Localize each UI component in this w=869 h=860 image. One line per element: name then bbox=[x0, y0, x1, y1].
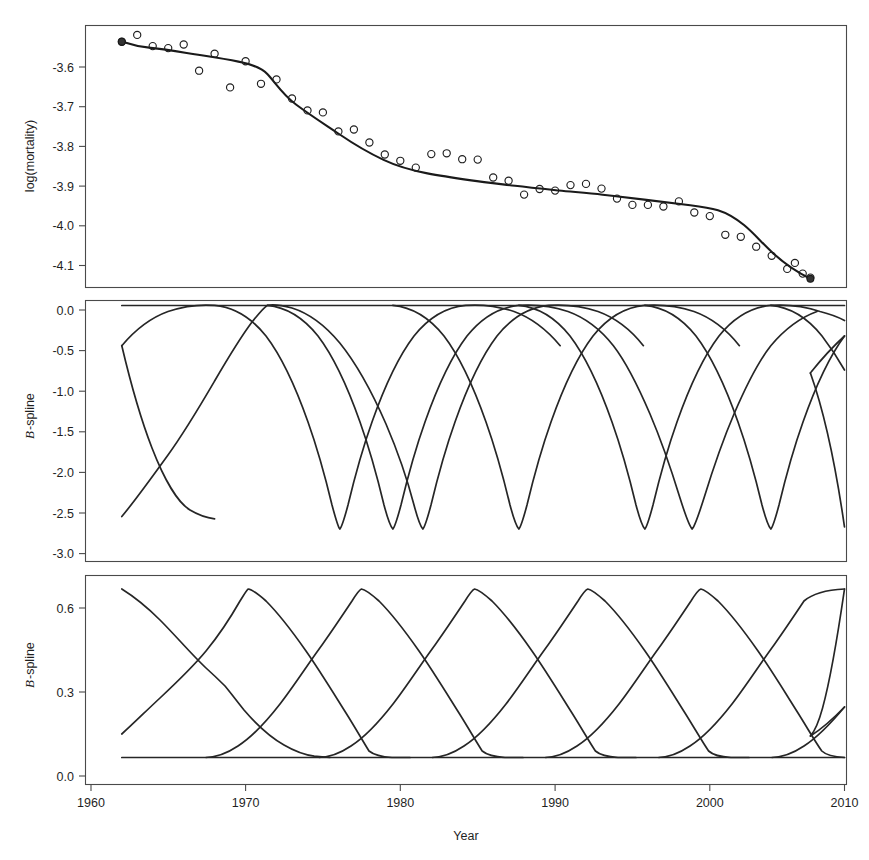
panel-log-bspline-y-axis-label: B -spline bbox=[22, 393, 37, 439]
xtick-label: 1970 bbox=[232, 796, 260, 810]
ytick-label: 0.3 bbox=[57, 686, 74, 700]
y-axis-label-italic-B: B bbox=[22, 431, 37, 439]
xtick-label: 1980 bbox=[386, 796, 414, 810]
xtick-label: 2010 bbox=[831, 796, 859, 810]
ytick-label: -1.0 bbox=[52, 385, 74, 399]
y-axis-label-italic-B: B bbox=[22, 680, 37, 688]
y-axis-label-suffix: -spline bbox=[23, 393, 37, 430]
ytick-label: -3.6 bbox=[52, 61, 74, 75]
ytick-label: 0.6 bbox=[57, 602, 74, 616]
shared-x-axis-label: Year bbox=[453, 829, 478, 843]
ytick-label: -3.0 bbox=[52, 547, 74, 561]
data-point-startpoint bbox=[118, 38, 125, 45]
figure-background bbox=[0, 0, 869, 860]
panel-bspline-y-axis-label: B -spline bbox=[22, 642, 37, 688]
ytick-label: -2.5 bbox=[52, 507, 74, 521]
xtick-label: 2000 bbox=[696, 796, 724, 810]
ytick-label: -4.1 bbox=[52, 259, 74, 273]
ytick-label: 0.0 bbox=[57, 770, 74, 784]
ytick-label: 0.0 bbox=[57, 304, 74, 318]
panel-mortality-y-axis-label: log(mortality) bbox=[23, 120, 37, 192]
ytick-label: -0.5 bbox=[52, 344, 74, 358]
ytick-label: -3.8 bbox=[52, 140, 74, 154]
data-point-endpoint bbox=[807, 275, 814, 282]
xtick-label: 1960 bbox=[77, 796, 105, 810]
ytick-label: -1.5 bbox=[52, 425, 74, 439]
ytick-label: -4.0 bbox=[52, 219, 74, 233]
ytick-label: -3.9 bbox=[52, 180, 74, 194]
y-axis-label-suffix: -spline bbox=[23, 642, 37, 679]
ytick-label: -3.7 bbox=[52, 100, 74, 114]
figure-canvas: -3.6 -3.7 -3.8 -3.9 -4.0 -4.1 log(mortal… bbox=[0, 0, 869, 860]
ytick-label: -2.0 bbox=[52, 466, 74, 480]
xtick-label: 1990 bbox=[541, 796, 569, 810]
three-panel-bspline-figure: -3.6 -3.7 -3.8 -3.9 -4.0 -4.1 log(mortal… bbox=[0, 0, 869, 860]
